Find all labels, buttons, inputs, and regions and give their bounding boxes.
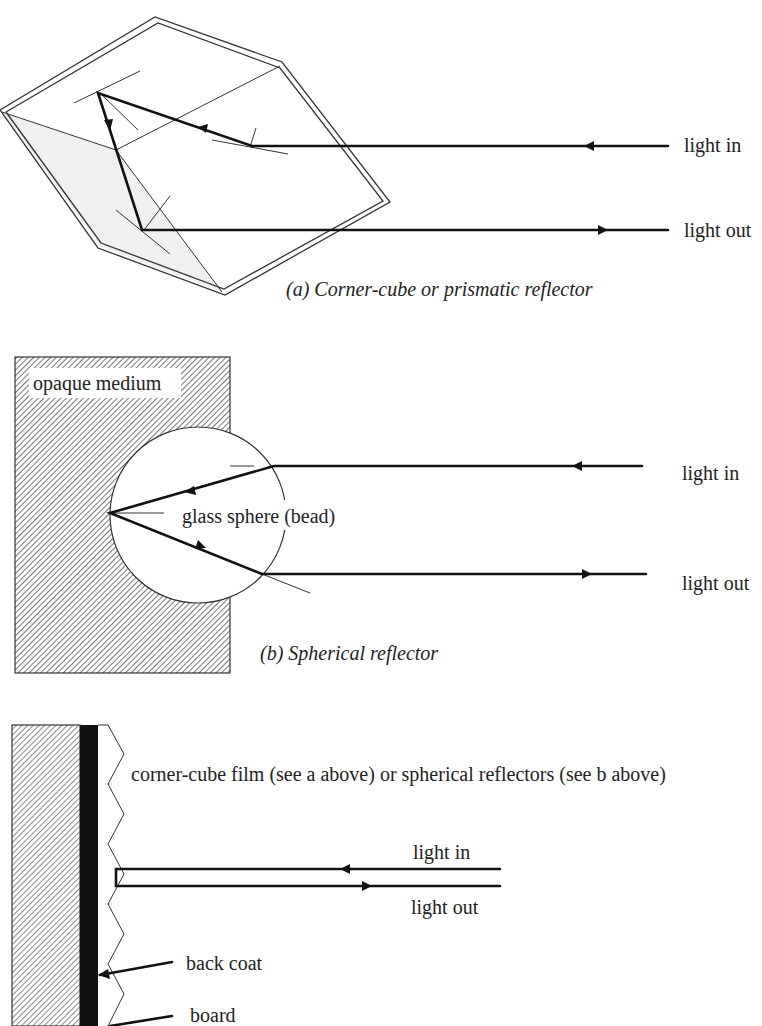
reflective-film-edge <box>98 725 124 1026</box>
leader-lines <box>98 962 172 1026</box>
label-opaque-medium: opaque medium <box>33 372 162 395</box>
label-board: board <box>190 1004 236 1026</box>
label-back-coat: back coat <box>186 952 263 974</box>
label-light-in-a: light in <box>684 134 741 157</box>
caption-b: (b) Spherical reflector <box>260 642 438 665</box>
arrow-out-b-icon <box>582 569 592 579</box>
label-light-in-b: light in <box>682 462 739 485</box>
panel-c-sign-board: corner-cube film (see a above) or spheri… <box>12 725 666 1026</box>
label-light-in-c: light in <box>413 841 470 864</box>
leader-arrow-back-coat-icon <box>98 969 110 979</box>
panel-a-corner-cube: light in light out (a) Corner-cube or pr… <box>0 17 752 301</box>
caption-a: (a) Corner-cube or prismatic reflector <box>286 278 593 301</box>
arrow-out-c-icon <box>362 881 372 891</box>
label-film: corner-cube film (see a above) or spheri… <box>131 763 666 786</box>
label-glass-sphere: glass sphere (bead) <box>182 505 335 528</box>
retroreflector-diagram: light in light out (a) Corner-cube or pr… <box>0 0 762 1026</box>
light-path-c <box>116 864 500 891</box>
arrow-in-icon <box>584 141 594 151</box>
diagram-canvas: light in light out (a) Corner-cube or pr… <box>0 0 762 1026</box>
label-light-out-b: light out <box>682 572 750 595</box>
label-light-out-c: light out <box>411 896 479 919</box>
label-light-out-a: light out <box>684 219 752 242</box>
arrow-out-icon <box>598 225 608 235</box>
back-coat-layer <box>80 725 98 1026</box>
panel-b-spherical: opaque medium glass sphere (bead) light … <box>15 357 750 673</box>
board-layer <box>12 725 80 1026</box>
light-path-a <box>98 93 668 235</box>
arrow-in-b-icon <box>572 461 582 471</box>
arrow-in-c-icon <box>340 864 350 874</box>
